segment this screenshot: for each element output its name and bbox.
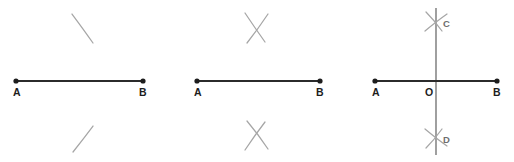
- label-b: B: [316, 86, 324, 98]
- endpoint-b-dot: [494, 78, 499, 83]
- label-b: B: [139, 86, 147, 98]
- endpoint-a-dot: [372, 78, 377, 83]
- endpoint-b-dot: [317, 78, 322, 83]
- panel-1-canvas: A B: [0, 0, 171, 162]
- construction-step-panel-1: A B: [0, 0, 171, 162]
- label-c: C: [443, 18, 450, 29]
- construction-step-panel-3: A O B C D: [342, 0, 514, 162]
- panel-3-canvas: A O B C D: [342, 0, 514, 162]
- label-a: A: [194, 86, 202, 98]
- arc-below-right-icon: [247, 121, 268, 149]
- endpoint-b-dot: [140, 78, 145, 83]
- panel-2-canvas: A B: [171, 0, 342, 162]
- geometry-construction-figure: A B A B A O B: [0, 0, 514, 162]
- label-o: O: [425, 86, 433, 98]
- arc-below-left-icon: [245, 122, 265, 150]
- endpoint-a-dot: [13, 78, 18, 83]
- label-a: A: [13, 86, 21, 98]
- label-b: B: [493, 86, 501, 98]
- label-a: A: [372, 86, 380, 98]
- label-d: D: [443, 134, 450, 145]
- construction-step-panel-2: A B: [171, 0, 342, 162]
- endpoint-a-dot: [194, 78, 199, 83]
- arc-above-right-icon: [247, 14, 268, 43]
- arc-above-icon: [72, 14, 93, 43]
- arc-below-icon: [73, 126, 93, 152]
- arc-above-left-icon: [245, 13, 265, 42]
